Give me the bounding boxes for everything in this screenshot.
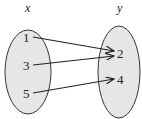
domain-value-3: 3 [23, 58, 30, 73]
range-value-4: 4 [117, 72, 124, 87]
range-label: y [116, 1, 123, 15]
mapping-diagram: x y 1 3 5 2 4 [0, 0, 142, 119]
domain-label: x [24, 1, 31, 15]
domain-value-1: 1 [23, 30, 30, 45]
domain-value-5: 5 [23, 86, 30, 101]
range-value-2: 2 [117, 46, 124, 61]
